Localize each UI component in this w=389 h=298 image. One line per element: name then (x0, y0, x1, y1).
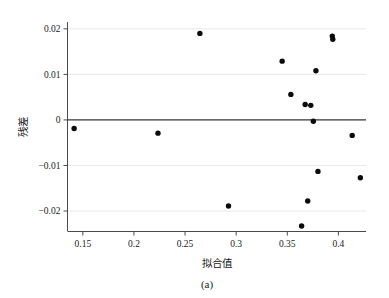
y-tick-label: 0 (56, 115, 61, 125)
data-point (315, 169, 320, 174)
x-tick-label: 0.25 (177, 239, 194, 249)
x-tick-label: 0.4 (332, 239, 344, 249)
data-point (288, 92, 293, 97)
data-point (313, 68, 318, 73)
x-tick-label: 0.3 (230, 239, 242, 249)
data-point (358, 175, 363, 180)
x-tick-label: 0.35 (279, 239, 296, 249)
data-point (308, 103, 313, 108)
figure-background (0, 0, 389, 298)
data-point (305, 198, 310, 203)
figure-panel: 0.150.20.250.30.350.4 0.020.010−0.01−0.0… (0, 0, 389, 298)
data-point (299, 223, 304, 228)
x-tick-label: 0.15 (75, 239, 92, 249)
data-point (349, 133, 354, 138)
data-point (226, 203, 231, 208)
y-tick-label: −0.01 (39, 161, 61, 171)
data-point (311, 119, 316, 124)
data-point (71, 126, 76, 131)
data-point (302, 102, 307, 107)
x-tick-label: 0.2 (128, 239, 140, 249)
scatter-plot: 0.150.20.250.30.350.4 0.020.010−0.01−0.0… (0, 0, 389, 298)
y-axis-title: 残差 (17, 117, 29, 137)
y-tick-label: −0.02 (39, 206, 61, 216)
y-tick-label: 0.01 (44, 70, 61, 80)
data-point (330, 37, 335, 42)
y-tick-label: 0.02 (44, 24, 61, 34)
data-point (279, 58, 284, 63)
figure-caption: (a) (201, 278, 214, 291)
x-axis-title: 拟合值 (202, 257, 233, 269)
data-point (197, 31, 202, 36)
data-point (155, 130, 160, 135)
